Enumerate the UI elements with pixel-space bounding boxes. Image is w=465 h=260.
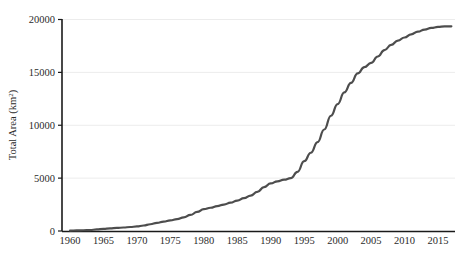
y-tick-label: 10000 <box>29 120 55 131</box>
x-tick-label: 1965 <box>93 235 114 246</box>
y-axis-title: Total Area (km2) <box>7 89 19 160</box>
x-tick-label: 1975 <box>160 235 181 246</box>
y-tick-label: 0 <box>50 226 55 237</box>
chart-background <box>0 0 465 260</box>
x-tick-label: 2015 <box>428 235 449 246</box>
line-chart: 05000100001500020000 1960196519701975198… <box>0 0 465 260</box>
y-tick-label: 20000 <box>29 14 55 25</box>
x-tick-label: 1990 <box>260 235 281 246</box>
x-tick-label: 1980 <box>193 235 214 246</box>
y-tick-label: 5000 <box>34 173 55 184</box>
x-tick-label: 2005 <box>361 235 382 246</box>
x-tick-label: 1960 <box>60 235 81 246</box>
chart-container: 05000100001500020000 1960196519701975198… <box>0 0 465 260</box>
x-tick-label: 1995 <box>294 235 315 246</box>
x-tick-label: 2000 <box>327 235 348 246</box>
svg-text:Total Area (km2): Total Area (km2) <box>7 89 19 160</box>
x-tick-label: 2010 <box>394 235 415 246</box>
x-tick-label: 1985 <box>227 235 248 246</box>
y-tick-label: 15000 <box>29 67 55 78</box>
x-tick-label: 1970 <box>126 235 147 246</box>
